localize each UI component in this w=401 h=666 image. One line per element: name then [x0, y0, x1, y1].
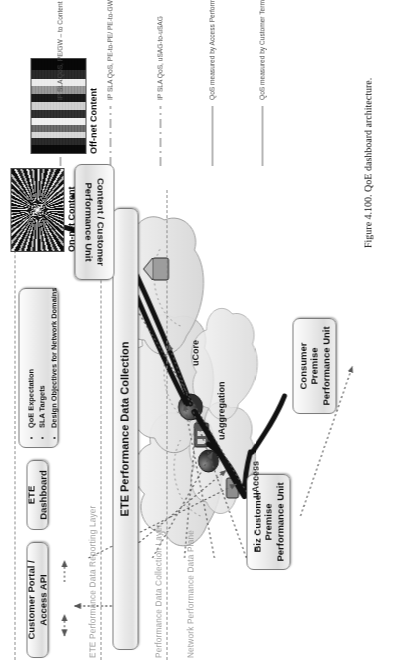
box-consumer-premise-performance-unit[interactable]: Consumer Premise Performance Unit: [292, 318, 336, 414]
box-content-customer-performance-unit[interactable]: Content / Customer Performance Unit: [74, 164, 114, 280]
box-customer-portal[interactable]: Customer Portal / Access API: [26, 542, 48, 658]
cloud-label-uaccess: uAccess: [250, 461, 260, 498]
box-ete-dashboard[interactable]: ETE Dashboard: [26, 460, 48, 530]
objective-item: SLA Targets: [36, 297, 47, 428]
layer-label-dataplane: Network Performance Data Plane: [186, 530, 195, 658]
layer-label-reporting: ETE Performance Data Reporting Layer: [88, 506, 97, 658]
legend-item-2: IP SLA QoS, uSAG-to-uSAG: [156, 16, 163, 100]
thumbnail-on-net-content: [10, 168, 64, 252]
objective-item: Design Objectives for Network Domains: [48, 297, 59, 428]
legend-item-4: QoS measured by Customer Termination Per…: [258, 0, 265, 100]
cloud-label-uaggregation: uAggregation: [216, 382, 226, 441]
layer-label-collection: Performance Data Collection Layer: [154, 524, 163, 658]
legend-item-0: IP SLA QoS, PE/GW – to Content: [56, 2, 63, 100]
cloud-label-ucore: uCore: [190, 340, 200, 366]
figure-caption: Figure 4.100. QoE dashboard architecture…: [362, 78, 373, 248]
label-on-net-content: On-net Content: [66, 187, 76, 253]
figure-canvas: ETE Performance Data Reporting Layer Per…: [0, 0, 401, 666]
legend-item-3: QoS measured by Access Performance Units: [208, 0, 215, 100]
legend-item-1: IP SLA QoS, PE-to-PE/ PE-to-GW: [106, 0, 113, 100]
layer-divider-dataplane: [166, 190, 167, 660]
objective-item: QoE Expectation: [25, 297, 36, 428]
layer-divider-reporting: [14, 190, 15, 660]
box-ete-performance-data-collection[interactable]: ETE Performance Data Collection: [112, 208, 138, 650]
objectives-box: QoE Expectation SLA Targets Design Objec…: [18, 288, 58, 448]
label-off-net-content: Off-net Content: [88, 88, 98, 154]
